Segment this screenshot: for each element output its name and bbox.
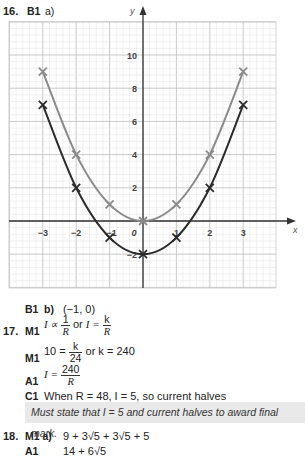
y-tick-label: 6 — [132, 117, 137, 127]
examiner-note: Must state that I = 5 and current halves… — [25, 402, 305, 423]
q17-line4: When R = 48, I = 5, so current halves — [44, 390, 226, 402]
q18-line2: 14 + 6√5 — [63, 445, 106, 457]
question-17-number: 17. — [3, 325, 18, 337]
x-tick-label: 3 — [241, 228, 246, 238]
x-axis-arrow — [287, 218, 296, 225]
tick-labels: −3−2023−11−2246810 — [38, 51, 246, 260]
y-tick-label: 4 — [132, 150, 137, 160]
x-tick-label: −3 — [38, 228, 48, 238]
equals-expr: I = — [86, 318, 100, 330]
parabola-graph: xy −3−2023−11−2246810 — [0, 0, 305, 295]
x-axis-label: x — [292, 225, 298, 235]
mark-b1-b: B1 — [25, 303, 38, 315]
q17-line2: 10 = k24 or k = 240 — [44, 341, 135, 364]
q17-line3: I = 240R — [44, 364, 80, 387]
y-tick-label: 2 — [132, 183, 137, 193]
q17-line2-mark: M1 — [25, 352, 40, 364]
q18-line1-mark: M1 a) — [25, 430, 52, 442]
fraction-1-over-r: 1R — [61, 314, 69, 337]
proportional-expr: I ∝ — [44, 318, 58, 330]
or-text: or — [73, 318, 83, 330]
y-axis-label: y — [129, 6, 135, 16]
q18-line1: 9 + 3√5 + 3√5 + 5 — [63, 430, 149, 442]
question-18-number: 18. — [3, 430, 18, 442]
q17-line1: I ∝ 1R or I = kR — [44, 314, 111, 337]
y-axis-arrow — [140, 6, 147, 15]
x-tick-label: 2 — [207, 228, 212, 238]
q18-line2-mark: A1 — [25, 445, 38, 457]
fraction-240-over-r: 240R — [61, 364, 81, 387]
y-tick-label: 10 — [127, 51, 137, 61]
x-tick-label: 0 — [131, 228, 136, 238]
q17-line4-mark: C1 — [25, 390, 38, 402]
fraction-k-over-r: kR — [103, 314, 111, 337]
y-tick-label: 8 — [132, 84, 137, 94]
q17-line3-mark: A1 — [25, 375, 38, 387]
q17-line1-mark: M1 — [25, 325, 40, 337]
x-tick-label: −2 — [71, 228, 81, 238]
fraction-k-over-24: k24 — [69, 341, 83, 364]
